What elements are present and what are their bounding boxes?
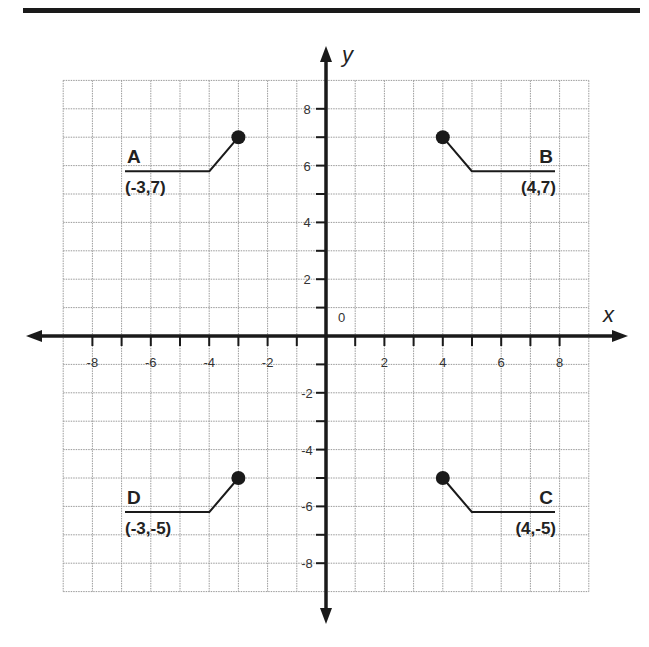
point-marker-icon — [436, 130, 450, 144]
coordinate-plane: -8-6-4-224688642-2-4-6-8 x y 0 A(-3,7)B(… — [0, 0, 649, 647]
y-axis-label: y — [340, 42, 355, 67]
y-tick-label: -2 — [301, 386, 313, 401]
x-axis-label: x — [602, 302, 615, 327]
point-name: C — [539, 487, 553, 508]
x-tick-label: -4 — [203, 355, 215, 370]
y-tick-label: -4 — [301, 443, 313, 458]
x-tick-label: -8 — [87, 355, 99, 370]
x-tick-label: 2 — [381, 355, 388, 370]
y-tick-label: -8 — [301, 556, 313, 571]
point-name: A — [127, 146, 141, 167]
y-axis-down-arrow-icon — [320, 608, 332, 624]
x-tick-label: 6 — [498, 355, 505, 370]
x-tick-label: -6 — [145, 355, 157, 370]
y-tick-label: 8 — [303, 102, 310, 117]
points: A(-3,7)B(4,7)C(4,-5)D(-3,-5) — [125, 130, 556, 538]
x-tick-label: -2 — [262, 355, 274, 370]
x-axis-left-arrow-icon — [26, 330, 42, 342]
point-name: D — [127, 487, 141, 508]
point-coords: (-3,7) — [125, 178, 166, 197]
y-tick-label: 6 — [303, 159, 310, 174]
point-coords: (4,-5) — [515, 519, 556, 538]
y-tick-label: 4 — [303, 215, 310, 230]
x-tick-label: 4 — [439, 355, 446, 370]
x-tick-label: 8 — [556, 355, 563, 370]
point-marker-icon — [231, 471, 245, 485]
y-tick-label: -6 — [301, 499, 313, 514]
point-marker-icon — [436, 471, 450, 485]
point-d: D(-3,-5) — [125, 471, 245, 538]
point-coords: (4,7) — [521, 178, 556, 197]
point-a: A(-3,7) — [125, 130, 245, 197]
origin-label: 0 — [338, 310, 345, 325]
point-marker-icon — [231, 130, 245, 144]
point-name: B — [539, 146, 553, 167]
point-c: C(4,-5) — [436, 471, 556, 538]
x-axis-right-arrow-icon — [612, 330, 628, 342]
y-tick-label: 2 — [303, 272, 310, 287]
point-b: B(4,7) — [436, 130, 556, 197]
y-axis-up-arrow-icon — [320, 46, 332, 62]
point-coords: (-3,-5) — [125, 519, 171, 538]
